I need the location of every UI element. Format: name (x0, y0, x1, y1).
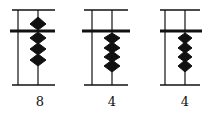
column-3-value: 4 (175, 94, 195, 109)
column-1-value: 8 (30, 94, 50, 109)
abacus-frame-3 (160, 10, 202, 85)
abacus-frame-1 (10, 10, 55, 85)
bead (30, 32, 46, 44)
bead (104, 60, 120, 72)
bead (30, 43, 46, 55)
bead (178, 60, 192, 72)
bead (30, 54, 46, 66)
bead (30, 17, 46, 30)
abacus-frame-2 (82, 10, 130, 85)
column-2-value: 4 (102, 94, 122, 109)
